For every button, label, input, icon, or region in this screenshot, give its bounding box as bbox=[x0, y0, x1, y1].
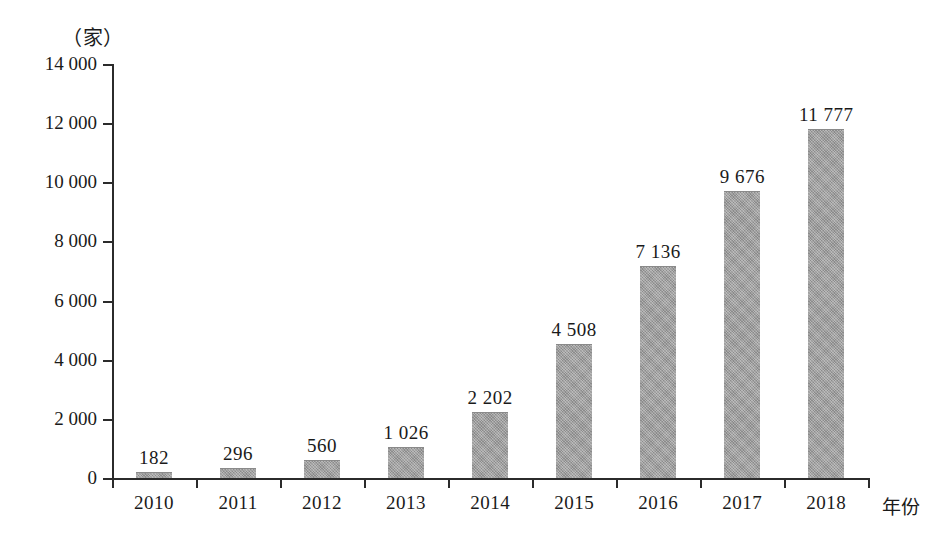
bar-value-label: 182 bbox=[139, 447, 169, 469]
x-tick-mark bbox=[868, 478, 870, 488]
x-tick-label-2014: 2014 bbox=[470, 492, 510, 514]
bar-2010 bbox=[136, 472, 172, 478]
bar-value-label: 11 777 bbox=[799, 104, 854, 126]
y-tick-label: 2 000 bbox=[54, 408, 97, 430]
x-tick-mark bbox=[280, 478, 282, 488]
x-tick-mark bbox=[784, 478, 786, 488]
y-tick-label: 4 000 bbox=[54, 349, 97, 371]
x-axis-line bbox=[112, 478, 870, 480]
bar-value-label: 4 508 bbox=[552, 319, 597, 341]
x-tick-mark bbox=[448, 478, 450, 488]
x-tick-mark bbox=[112, 478, 114, 488]
bar-2011 bbox=[220, 468, 256, 478]
bar-value-label: 7 136 bbox=[636, 241, 681, 263]
x-tick-label-2015: 2015 bbox=[554, 492, 594, 514]
y-tick-mark bbox=[103, 123, 112, 125]
bar-value-label: 2 202 bbox=[468, 387, 513, 409]
bar-2012 bbox=[304, 460, 340, 478]
y-tick-mark bbox=[103, 241, 112, 243]
x-tick-mark bbox=[616, 478, 618, 488]
bar-2014 bbox=[472, 412, 508, 478]
plot-area: 02 0004 0006 0008 00010 00012 00014 000 … bbox=[112, 64, 870, 478]
x-tick-label-2017: 2017 bbox=[722, 492, 762, 514]
bars-layer: 1822965601 0262 2024 5087 1369 67611 777 bbox=[112, 64, 870, 478]
x-tick-label-2018: 2018 bbox=[806, 492, 846, 514]
y-tick-mark bbox=[103, 182, 112, 184]
y-tick-label: 10 000 bbox=[45, 171, 97, 193]
x-tick-label-2010: 2010 bbox=[134, 492, 174, 514]
y-tick-label: 8 000 bbox=[54, 230, 97, 252]
y-tick-label: 6 000 bbox=[54, 290, 97, 312]
x-tick-label-2016: 2016 bbox=[638, 492, 678, 514]
x-axis-title: 年份 bbox=[882, 492, 920, 519]
x-tick-label-2013: 2013 bbox=[386, 492, 426, 514]
x-tick-mark bbox=[196, 478, 198, 488]
bar-value-label: 9 676 bbox=[720, 166, 765, 188]
bar-2016 bbox=[640, 266, 676, 478]
y-tick-mark bbox=[103, 478, 112, 480]
y-tick-mark bbox=[103, 301, 112, 303]
y-tick-mark bbox=[103, 360, 112, 362]
y-tick-label: 0 bbox=[88, 467, 98, 489]
x-tick-mark bbox=[532, 478, 534, 488]
bar-2017 bbox=[724, 191, 760, 478]
x-tick-label-2012: 2012 bbox=[302, 492, 342, 514]
y-tick-label: 14 000 bbox=[45, 53, 97, 75]
x-tick-mark bbox=[364, 478, 366, 488]
x-tick-mark bbox=[700, 478, 702, 488]
bar-2018 bbox=[808, 129, 844, 478]
x-tick-label-2011: 2011 bbox=[218, 492, 257, 514]
y-axis-unit-label: （家） bbox=[62, 22, 124, 51]
bar-chart: （家） 02 0004 0006 0008 00010 00012 00014 … bbox=[0, 0, 928, 549]
y-tick-label: 12 000 bbox=[45, 112, 97, 134]
bar-value-label: 1 026 bbox=[383, 422, 428, 444]
y-tick-mark bbox=[103, 64, 112, 66]
bar-value-label: 560 bbox=[307, 435, 337, 457]
y-tick-mark bbox=[103, 419, 112, 421]
bar-value-label: 296 bbox=[223, 443, 253, 465]
bar-2015 bbox=[556, 344, 592, 478]
bar-2013 bbox=[388, 447, 424, 478]
